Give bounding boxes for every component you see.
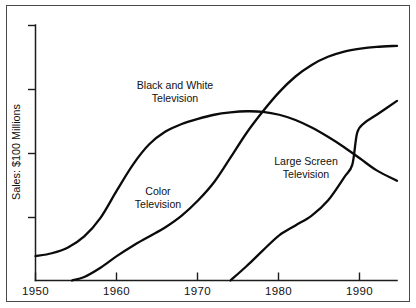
y-axis-title: Sales: $100 Millions <box>10 103 22 200</box>
series-label-black-and-white-line2: Television <box>152 92 199 104</box>
series-label-color-television-line1: Color <box>145 185 171 197</box>
x-tick-label-1990: 1990 <box>346 285 373 297</box>
x-tick-label-1950: 1950 <box>22 285 49 297</box>
series-curve-black-and-white-television <box>36 111 398 256</box>
line-chart: 1950 1960 1970 1980 1990 Sales: $100 Mil… <box>0 0 416 308</box>
x-tick-label-1960: 1960 <box>103 285 130 297</box>
x-tick-label-1970: 1970 <box>184 285 211 297</box>
series-label-large-screen-line2: Television <box>283 168 330 180</box>
series-label-black-and-white-line1: Black and White <box>137 79 214 91</box>
series-label-large-screen-line1: Large Screen <box>274 155 338 167</box>
series-label-color-television-line2: Television <box>135 198 182 210</box>
figure-container: 1950 1960 1970 1980 1990 Sales: $100 Mil… <box>0 0 416 308</box>
series-curve-color-television <box>72 46 397 281</box>
x-tick-label-1980: 1980 <box>265 285 292 297</box>
